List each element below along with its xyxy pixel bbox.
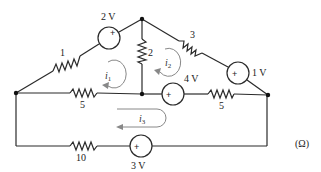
resistor-r5a: 5 bbox=[70, 89, 97, 110]
plus-sign: + bbox=[110, 28, 115, 38]
node-left bbox=[14, 91, 18, 95]
plus-sign: + bbox=[166, 90, 171, 100]
resistor-r5b-label: 5 bbox=[219, 100, 224, 111]
node-top bbox=[140, 17, 144, 21]
plus-sign: + bbox=[134, 142, 139, 152]
resistor-r1-label: 1 bbox=[60, 47, 65, 58]
voltage-source-4v-label: 4 V bbox=[184, 73, 199, 84]
mesh-current-i1: i1 bbox=[102, 60, 126, 89]
mesh-current-i2-label: i2 bbox=[165, 57, 172, 70]
unit-label: (Ω) bbox=[295, 138, 309, 150]
resistor-r5a-label: 5 bbox=[80, 99, 85, 110]
resistor-r5b: 5 bbox=[208, 90, 234, 111]
node-middle bbox=[140, 92, 144, 96]
voltage-source-1v-label: 1 V bbox=[252, 67, 267, 78]
node-right bbox=[266, 93, 270, 97]
voltage-source-4v: + 4 V bbox=[162, 73, 199, 105]
resistor-r1: 1 bbox=[53, 47, 80, 72]
resistor-r2: 2 bbox=[138, 39, 153, 64]
plus-sign: + bbox=[232, 69, 237, 79]
circuit-diagram: 1 2 3 5 5 10 + 2 V + 1 V + 4 V + 3 V bbox=[0, 0, 321, 172]
voltage-source-3v: + 3 V bbox=[130, 135, 152, 171]
mesh-current-i3-label: i3 bbox=[139, 113, 146, 126]
voltage-source-2v: + 2 V bbox=[98, 11, 120, 49]
resistor-r3-label: 3 bbox=[190, 29, 195, 40]
mesh-current-i2: i2 bbox=[154, 48, 181, 76]
mesh-current-i3: i3 bbox=[116, 109, 166, 130]
mesh-current-i1-label: i1 bbox=[105, 70, 112, 83]
resistor-r10-label: 10 bbox=[76, 152, 86, 163]
voltage-source-2v-label: 2 V bbox=[101, 11, 116, 22]
resistor-r2-label: 2 bbox=[148, 47, 153, 58]
resistor-r3: 3 bbox=[179, 29, 202, 56]
voltage-source-3v-label: 3 V bbox=[131, 160, 146, 171]
resistor-r10: 10 bbox=[70, 142, 97, 163]
